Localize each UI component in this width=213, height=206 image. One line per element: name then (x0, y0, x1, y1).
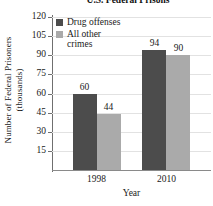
bar-2010-all-other-crimes: 90 (166, 55, 190, 170)
chart-figure: U.S. Federal Prisons Number of Federal P… (0, 0, 213, 206)
bar-value-label: 44 (104, 102, 114, 112)
chart-title: U.S. Federal Prisons (48, 0, 208, 5)
legend-label-all-other-crimes: All other crimes (67, 29, 101, 50)
bar-value-label: 60 (80, 82, 90, 92)
y-axis-tick-label: 60 (37, 89, 47, 99)
y-axis-tick-label: 45 (37, 108, 47, 118)
y-axis-tick (48, 113, 52, 114)
y-axis-title-line-2: (thousands) (13, 37, 24, 144)
y-axis-tick-label: 15 (37, 146, 47, 156)
bar-value-label: 90 (174, 43, 184, 53)
y-axis-tick-label: 30 (37, 127, 47, 137)
legend-label-drug-offenses: Drug offenses (67, 17, 120, 28)
bar-1998-drug-offenses: 60 (73, 94, 97, 171)
legend-swatch-drug-offenses (56, 19, 63, 26)
y-axis-tick (48, 74, 52, 75)
y-axis-tick (48, 132, 52, 133)
y-axis-tick (48, 17, 52, 18)
y-axis-title: Number of Federal Prisoners (thousands) (0, 14, 26, 166)
legend-swatch-all-other-crimes (56, 31, 63, 38)
y-axis-tick (48, 151, 52, 152)
x-axis-line (52, 170, 211, 171)
chart-legend: Drug offenses All other crimes (56, 17, 142, 51)
bar-1998-all-other-crimes: 44 (97, 114, 121, 170)
y-axis-tick-label: 90 (37, 51, 47, 61)
bar-2010-drug-offenses: 94 (142, 50, 166, 170)
y-axis-tick (48, 94, 52, 95)
legend-item-all-other-crimes[interactable]: All other crimes (56, 29, 142, 50)
y-axis-tick (48, 55, 52, 56)
y-axis-title-line-1: Number of Federal Prisoners (3, 37, 14, 144)
y-axis-tick (48, 36, 52, 37)
y-axis-tick-label: 105 (32, 31, 46, 41)
y-axis-tick-label: 75 (37, 70, 47, 80)
bar-value-label: 94 (150, 38, 160, 48)
x-axis-tick-label: 2010 (157, 174, 176, 184)
x-axis-tick-label: 1998 (87, 174, 106, 184)
x-axis-title: Year (52, 188, 211, 198)
y-axis-tick-label: 120 (32, 12, 46, 22)
legend-item-drug-offenses[interactable]: Drug offenses (56, 17, 142, 28)
